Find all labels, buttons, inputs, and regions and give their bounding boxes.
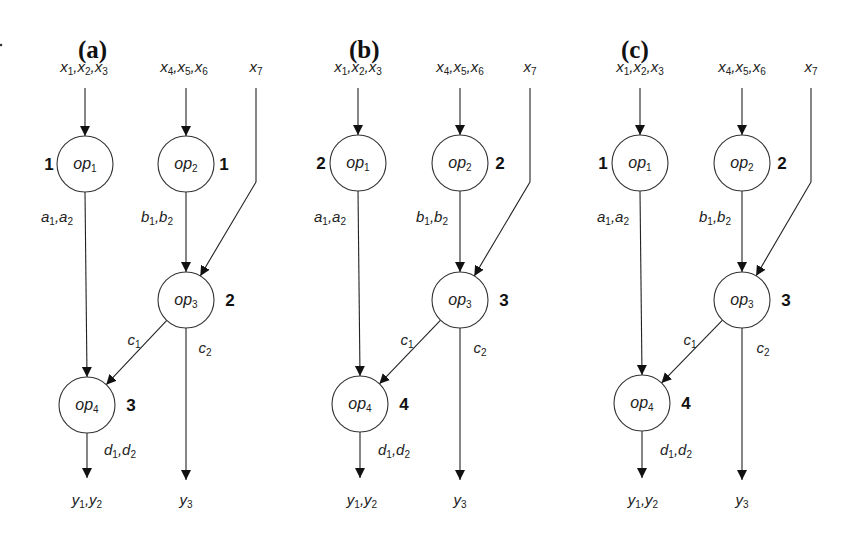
edge-x7-to-op3 <box>200 182 256 276</box>
edge-label: c2​ <box>756 339 770 358</box>
edge-label: c1​ <box>400 331 414 350</box>
output-label: y1​,y2​ <box>627 491 659 510</box>
execution-order-number: 4 <box>681 394 691 413</box>
input-label: x7​ <box>248 58 263 77</box>
execution-order-number: 2 <box>225 291 234 310</box>
node-op2: op22 <box>432 135 505 191</box>
node-op4: op44 <box>332 376 409 432</box>
input-label: x1​,x2​,x3​ <box>59 58 108 77</box>
execution-order-number: 1 <box>598 154 607 173</box>
node-op3: op33 <box>432 272 509 328</box>
edge-label: a1​,a2​ <box>314 208 346 227</box>
output-label: y3​ <box>734 491 749 510</box>
input-label: x7​ <box>522 58 537 77</box>
stray-mark <box>0 44 2 47</box>
input-label: x1​,x2​,x3​ <box>615 58 664 77</box>
execution-order-number: 2 <box>316 154 325 173</box>
edge-x7-to-op3 <box>474 182 530 276</box>
node-op2: op22 <box>714 135 787 191</box>
edge-op3-to-op4 <box>662 320 723 383</box>
edge-label: b1​,b2​ <box>416 208 448 227</box>
edge-label: c1​ <box>683 331 697 350</box>
input-label: x4​,x5​,x6​ <box>159 58 208 77</box>
edge-label: d1​,d2​ <box>660 441 692 460</box>
input-label: x4​,x5​,x6​ <box>717 58 766 77</box>
edge-x7-to-op3 <box>756 182 811 276</box>
edge-op1-to-op4 <box>85 192 87 377</box>
output-label: y1​,y2​ <box>346 491 378 510</box>
output-label: y3​ <box>178 491 193 510</box>
edge-op3-to-op4 <box>106 320 167 384</box>
output-label: y1​,y2​ <box>71 491 103 510</box>
node-op3: op32 <box>158 272 235 328</box>
edge-label: c2​ <box>473 339 487 358</box>
dataflow-figure: (a)x1​,x2​,x3​x4​,x5​,x6​x7​op11op21op32… <box>0 0 850 536</box>
edge-op3-to-op4 <box>379 320 440 384</box>
execution-order-number: 1 <box>219 155 228 174</box>
input-label: x1​,x2​,x3​ <box>333 58 382 77</box>
execution-order-number: 4 <box>399 395 409 414</box>
panel-a: (a)x1​,x2​,x3​x4​,x5​,x6​x7​op11op21op32… <box>41 36 263 510</box>
node-op4: op43 <box>59 377 136 433</box>
node-op3: op33 <box>714 272 791 328</box>
input-label: x7​ <box>803 58 818 77</box>
edge-label: d1​,d2​ <box>378 441 410 460</box>
execution-order-number: 3 <box>126 396 135 415</box>
execution-order-number: 1 <box>44 155 53 174</box>
output-label: y3​ <box>452 491 467 510</box>
edge-label: a1​,a2​ <box>597 208 629 227</box>
edge-label: a1​,a2​ <box>41 208 73 227</box>
execution-order-number: 3 <box>781 291 790 310</box>
input-label: x4​,x5​,x6​ <box>435 58 484 77</box>
edge-label: b1​,b2​ <box>141 208 173 227</box>
edge-label: c1​ <box>127 331 141 350</box>
edge-op1-to-op4 <box>358 191 360 376</box>
edge-op1-to-op4 <box>640 191 642 375</box>
edge-label: c2​ <box>198 339 212 358</box>
panel-c: (c)x1​,x2​,x3​x4​,x5​,x6​x7​op11op22op33… <box>597 36 818 510</box>
execution-order-number: 2 <box>495 154 504 173</box>
node-op1: op11 <box>598 135 668 191</box>
execution-order-number: 3 <box>499 291 508 310</box>
node-op1: op12 <box>316 135 386 191</box>
edge-label: d1​,d2​ <box>104 441 136 460</box>
panel-b: (b)x1​,x2​,x3​x4​,x5​,x6​x7​op12op22op33… <box>314 36 537 510</box>
node-op1: op11 <box>44 136 113 192</box>
figure-root: (a)x1​,x2​,x3​x4​,x5​,x6​x7​op11op21op32… <box>0 36 818 510</box>
edge-label: b1​,b2​ <box>699 208 731 227</box>
execution-order-number: 2 <box>777 154 786 173</box>
node-op4: op44 <box>614 375 691 431</box>
node-op2: op21 <box>158 136 229 192</box>
